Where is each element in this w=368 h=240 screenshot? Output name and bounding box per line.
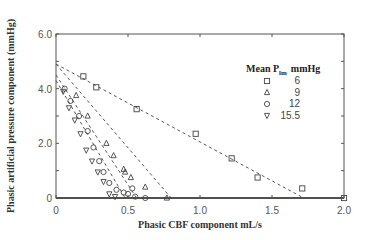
x-tick-label: 1.5	[265, 205, 279, 216]
x-tick-label: 2.0	[337, 205, 351, 216]
data-point-triangle-up-icon	[128, 174, 133, 179]
fit-line-9	[56, 64, 171, 198]
data-markers	[61, 74, 347, 201]
legend-triangle-up-icon	[264, 89, 269, 94]
data-point-circle-icon	[85, 128, 90, 133]
x-axis-title: Phasic CBF component mL/s	[138, 219, 262, 230]
y-tick-label: 2.0	[38, 138, 52, 149]
x-axis-ticks: 00.51.01.52.0	[53, 34, 351, 216]
y-axis-title: Phasic artificial pressure component (mm…	[5, 19, 17, 213]
data-point-circle-icon	[97, 159, 102, 164]
data-point-triangle-down-icon	[66, 106, 71, 111]
legend-label: 12	[289, 98, 301, 109]
x-tick-label: 0	[53, 205, 59, 216]
data-point-triangle-down-icon	[78, 132, 83, 137]
x-tick-label: 1.0	[193, 205, 207, 216]
y-tick-label: 0	[46, 193, 52, 204]
data-point-circle-icon	[91, 145, 96, 150]
legend: Mean PlmmmHg 691215.5	[246, 63, 320, 121]
plot-frame-rect	[56, 34, 344, 198]
data-point-circle-icon	[114, 187, 119, 192]
legend-title-unit: mmHg	[291, 63, 320, 74]
fit-line-12	[56, 75, 137, 198]
data-point-triangle-down-icon	[89, 159, 94, 164]
fit-line-15-5	[56, 80, 125, 198]
x-tick-label: 0.5	[121, 205, 135, 216]
legend-title-sub: lm	[279, 69, 287, 77]
data-point-triangle-up-icon	[143, 184, 148, 189]
y-tick-label: 6.0	[38, 29, 52, 40]
legend-items: 691215.5	[264, 75, 300, 121]
legend-title-main: Mean P	[246, 63, 279, 74]
data-point-triangle-down-icon	[107, 192, 112, 197]
data-point-triangle-down-icon	[101, 180, 106, 185]
data-point-triangle-up-icon	[74, 92, 79, 97]
data-point-square-icon	[229, 156, 234, 161]
data-point-triangle-up-icon	[104, 140, 109, 145]
y-tick-label: 4.0	[38, 84, 52, 95]
legend-label: 15.5	[281, 110, 301, 121]
data-point-triangle-down-icon	[95, 170, 100, 175]
plot-frame	[56, 34, 344, 198]
data-point-triangle-up-icon	[111, 153, 116, 158]
data-point-square-icon	[255, 175, 260, 180]
legend-circle-icon	[264, 101, 269, 106]
fit-lines	[56, 64, 304, 198]
chart: 00.51.01.52.0 02.04.06.0 Phasic CBF comp…	[0, 0, 368, 240]
legend-label: 6	[294, 75, 300, 86]
data-point-triangle-down-icon	[72, 118, 77, 123]
data-point-circle-icon	[107, 180, 112, 185]
data-point-square-icon	[300, 186, 305, 191]
legend-label: 9	[294, 87, 300, 98]
data-point-square-icon	[81, 74, 86, 79]
data-point-triangle-down-icon	[84, 148, 89, 153]
data-point-triangle-up-icon	[85, 113, 90, 118]
legend-square-icon	[264, 78, 269, 83]
data-point-triangle-down-icon	[112, 195, 117, 200]
data-point-circle-icon	[101, 169, 106, 174]
legend-title: Mean PlmmmHg	[246, 63, 320, 77]
data-point-circle-icon	[62, 86, 67, 91]
data-point-circle-icon	[130, 186, 135, 191]
data-point-square-icon	[193, 131, 198, 136]
legend-triangle-down-icon	[264, 113, 269, 118]
